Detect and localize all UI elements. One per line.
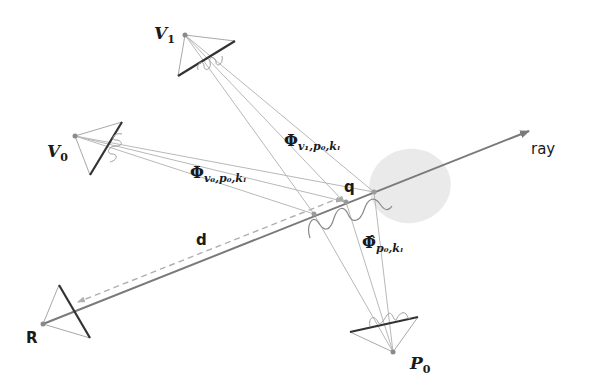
phi-hat-subscript: p₀,kₗ xyxy=(376,242,403,255)
label-r: R xyxy=(26,331,38,346)
label-v1: V1 xyxy=(154,25,175,45)
phi-v0-subscript: v₀,p₀,kₗ xyxy=(204,172,246,185)
label-v0: V0 xyxy=(47,143,68,163)
label-q: q xyxy=(344,180,355,195)
distance-d-arrow xyxy=(78,197,342,302)
label-phi-v0-p0-kl: Φv₀,p₀,kₗ xyxy=(190,165,246,184)
phi-hat-symbol: Φ̂ xyxy=(362,233,376,252)
label-ray: ray xyxy=(531,142,555,157)
label-p0-sub: 0 xyxy=(423,363,431,376)
label-phi-hat-p0-kl: Φ̂p₀,kₗ xyxy=(362,235,403,254)
label-p0-text: P xyxy=(410,353,423,373)
p0-projection-lines xyxy=(314,192,393,352)
phi-v0-symbol: Φ xyxy=(190,163,204,182)
diagram-canvas xyxy=(0,0,590,384)
label-v1-text: V xyxy=(154,23,167,43)
label-phi-v1-p0-kl: Φv₁,p₀,kₗ xyxy=(284,133,340,152)
phi-v1-subscript: v₁,p₀,kₗ xyxy=(298,140,340,153)
label-p0: P0 xyxy=(410,355,430,375)
label-d: d xyxy=(196,233,207,248)
camera-r xyxy=(41,285,91,338)
camera-p0 xyxy=(350,313,418,355)
ray-line xyxy=(43,131,529,324)
label-v0-sub: 0 xyxy=(60,151,68,164)
label-v1-sub: 1 xyxy=(167,33,175,46)
label-v0-text: V xyxy=(47,141,60,161)
phi-v1-symbol: Φ xyxy=(284,131,298,150)
